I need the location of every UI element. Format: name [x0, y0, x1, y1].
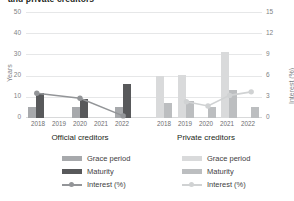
y-tick-right-3: 3	[266, 92, 286, 99]
legend-item-official-interest: Interest (%)	[62, 178, 130, 191]
x-tick-official-2022: 2022	[110, 120, 134, 127]
legend-official: Grace period Maturity Interest (%)	[62, 152, 130, 191]
y-tick-left-10: 10	[1, 92, 21, 99]
legend-private: Grace period Maturity Interest (%)	[182, 152, 250, 191]
interest-marker-official-2022	[121, 113, 126, 118]
y-tick-left-30: 30	[1, 50, 21, 57]
y-tick-left-50: 50	[1, 8, 21, 15]
y-tick-left-0: 0	[1, 113, 21, 120]
group-label-private: Private creditors	[152, 133, 260, 142]
legend-item-private-interest: Interest (%)	[182, 178, 250, 191]
legend-item-official-grace: Grace period	[62, 152, 130, 165]
legend-swatch-interest-line-icon	[182, 181, 202, 188]
legend-marker-icon	[189, 182, 194, 187]
y-tick-right-6: 6	[266, 71, 286, 78]
legend-marker-icon	[69, 182, 74, 187]
y-tick-right-12: 12	[266, 29, 286, 36]
y-tick-right-9: 9	[266, 50, 286, 57]
legend-label-grace: Grace period	[87, 155, 130, 163]
legend-label-interest: Interest (%)	[207, 181, 246, 189]
group-label-official: Official creditors	[26, 133, 134, 142]
interest-marker-official-2020	[77, 96, 82, 101]
y-axis-right-title: Interest (%)	[288, 68, 294, 104]
legend-item-official-maturity: Maturity	[62, 165, 130, 178]
plot-area	[26, 12, 262, 118]
y-tick-left-40: 40	[1, 29, 21, 36]
y-tick-right-15: 15	[266, 8, 286, 15]
legend-label-maturity: Maturity	[87, 168, 114, 176]
legend-swatch-maturity-icon	[182, 169, 202, 174]
y-tick-left-20: 20	[1, 71, 21, 78]
interest-line-private	[186, 92, 251, 106]
interest-marker-private-2022	[249, 89, 254, 94]
legend-swatch-grace-icon	[182, 156, 202, 161]
y-tick-right-0: 0	[266, 113, 286, 120]
interest-marker-private-2020	[205, 103, 210, 108]
interest-marker-private-2019	[184, 99, 189, 104]
interest-marker-private-2021	[227, 93, 232, 98]
chart-root: and private creditors Years Interest (%)…	[0, 0, 294, 201]
legend-swatch-grace-icon	[62, 156, 82, 161]
legend-swatch-interest-line-icon	[62, 181, 82, 188]
interest-marker-official-2018	[34, 91, 39, 96]
legend-label-grace: Grace period	[207, 155, 250, 163]
legend-label-maturity: Maturity	[207, 168, 234, 176]
legend-item-private-maturity: Maturity	[182, 165, 250, 178]
x-tick-private-2022: 2022	[236, 120, 260, 127]
legend-item-private-grace: Grace period	[182, 152, 250, 165]
legend-label-interest: Interest (%)	[87, 181, 126, 189]
legend-swatch-maturity-icon	[62, 169, 82, 174]
interest-line-layer	[26, 12, 262, 118]
chart-title: and private creditors	[8, 0, 94, 4]
